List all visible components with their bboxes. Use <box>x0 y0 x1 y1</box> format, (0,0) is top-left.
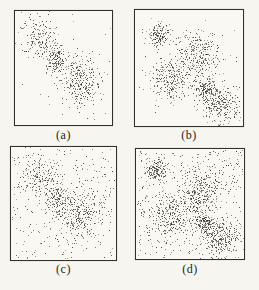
scatter-plot-b <box>135 10 243 126</box>
scatter-plot-d <box>136 149 244 259</box>
panel-label-c: (c) <box>10 262 117 276</box>
scatter-panel-d <box>135 148 245 260</box>
scatter-panel-c <box>10 146 117 261</box>
scatter-plot-a <box>15 11 112 125</box>
panel-label-a: (a) <box>14 128 113 142</box>
scatter-plot-c <box>11 147 116 260</box>
scatter-panel-a <box>14 10 113 126</box>
panel-label-b: (b) <box>134 128 244 142</box>
panel-label-d: (d) <box>135 262 245 276</box>
figure-page: (a) (b) (c) (d) <box>0 0 259 290</box>
scatter-panel-b <box>134 9 244 127</box>
